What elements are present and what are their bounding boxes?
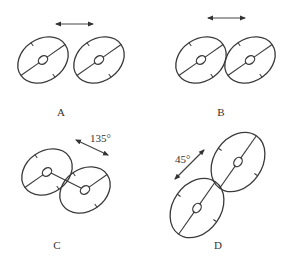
panel-label-c: C [53,239,60,251]
angle-label-45: 45° [175,153,190,165]
panel-label-b: B [217,106,224,118]
disc-c-lower [51,157,119,222]
panel-label-a: A [57,106,65,118]
panel-c: 135° C [13,132,119,251]
disc-a-right [65,27,133,92]
disc-b-right [216,27,284,92]
disc-c-upper [13,139,81,204]
disc-a-left [9,27,77,92]
disc-d-lower [159,168,235,248]
angle-label-135: 135° [90,132,111,144]
disc-d-upper [200,122,276,202]
panel-b: B [167,18,284,118]
panel-a: A [9,24,133,118]
panel-d: 45° D [159,122,276,251]
figure-canvas: A B 135° [0,0,287,261]
axis-line-c [51,173,81,188]
panel-label-d: D [214,239,222,251]
